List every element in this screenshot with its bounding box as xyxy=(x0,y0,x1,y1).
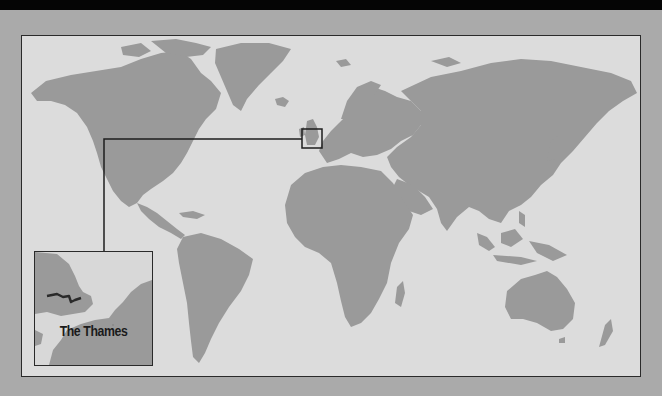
central-america xyxy=(137,203,185,239)
inset-label: The Thames xyxy=(46,322,142,339)
england xyxy=(35,252,93,316)
inset-map[interactable]: The Thames xyxy=(34,251,153,366)
africa xyxy=(285,165,413,327)
north-america xyxy=(31,51,221,207)
great-britain xyxy=(305,119,319,145)
south-america xyxy=(177,233,253,363)
inset-landmass xyxy=(35,252,152,365)
australia xyxy=(505,271,575,331)
top-bar xyxy=(0,0,662,10)
